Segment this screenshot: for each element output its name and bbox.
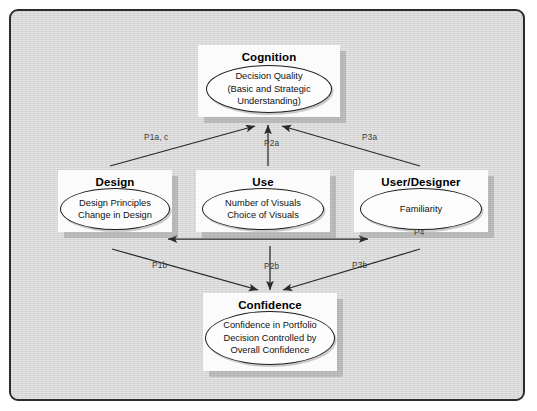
- node-user-designer-text: Familiarity: [394, 203, 448, 215]
- node-user-designer-title: User/Designer: [354, 170, 488, 189]
- edge-p3a: [282, 126, 420, 166]
- edge-p1b: [112, 249, 258, 290]
- node-confidence: Confidence Confidence in Portfolio Decis…: [203, 293, 337, 371]
- node-cognition-text: Decision Quality (Basic and Strategic Un…: [221, 70, 316, 107]
- edge-label-p3a: P3a: [362, 133, 377, 142]
- node-design-text: Design Principles Change in Design: [72, 197, 158, 222]
- node-confidence-title: Confidence: [203, 293, 337, 312]
- edge-label-p1b: P1b: [152, 261, 167, 270]
- node-use-ellipse-wrap: Number of Visuals Choice of Visuals: [202, 188, 324, 230]
- node-user-designer-ellipse: Familiarity: [360, 188, 482, 230]
- node-confidence-ellipse: Confidence in Portfolio Decision Control…: [205, 311, 335, 365]
- node-cognition-ellipse: Decision Quality (Basic and Strategic Un…: [206, 65, 332, 113]
- edge-label-p4: P4: [414, 228, 424, 237]
- node-cognition: Cognition Decision Quality (Basic and St…: [198, 45, 340, 117]
- edge-label-p2a: P2a: [264, 139, 279, 148]
- node-confidence-ellipse-wrap: Confidence in Portfolio Decision Control…: [205, 311, 335, 365]
- node-use-text: Number of Visuals Choice of Visuals: [219, 197, 307, 222]
- node-user-designer-ellipse-wrap: Familiarity: [360, 188, 482, 230]
- node-use-ellipse: Number of Visuals Choice of Visuals: [202, 188, 324, 230]
- node-design-ellipse-wrap: Design Principles Change in Design: [60, 188, 170, 230]
- node-cognition-ellipse-wrap: Decision Quality (Basic and Strategic Un…: [206, 65, 332, 113]
- diagram-root: Cognition Decision Quality (Basic and St…: [0, 0, 537, 411]
- node-user-designer: User/Designer Familiarity: [354, 170, 488, 232]
- node-design: Design Design Principles Change in Desig…: [58, 170, 172, 232]
- node-design-title: Design: [58, 170, 172, 189]
- edge-label-p3b: P3b: [352, 261, 367, 270]
- edge-label-p1ac: P1a, c: [144, 133, 168, 142]
- node-confidence-text: Confidence in Portfolio Decision Control…: [217, 319, 323, 356]
- edge-label-p2b: P2b: [264, 262, 279, 271]
- node-design-ellipse: Design Principles Change in Design: [60, 188, 170, 230]
- node-use-title: Use: [196, 170, 330, 189]
- node-cognition-title: Cognition: [198, 45, 340, 64]
- edge-p1ac: [110, 126, 255, 166]
- node-use: Use Number of Visuals Choice of Visuals: [196, 170, 330, 232]
